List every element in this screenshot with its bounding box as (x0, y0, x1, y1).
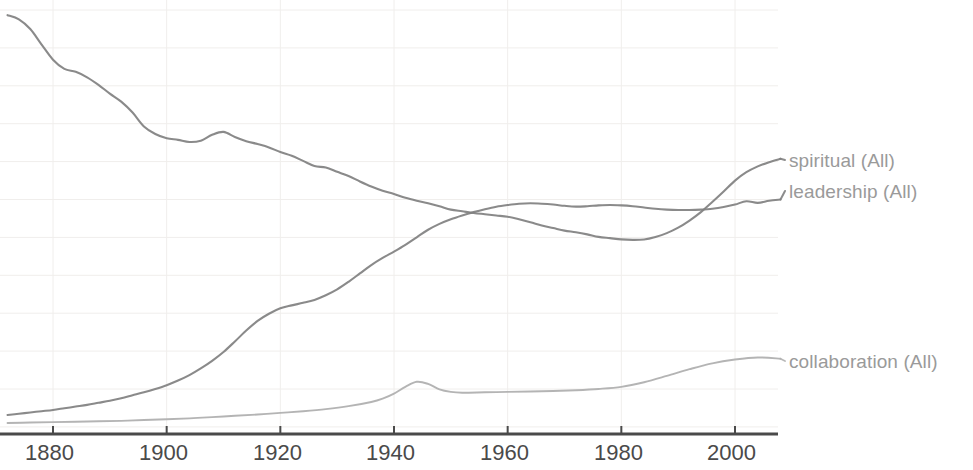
legend-label-collaboration[interactable]: collaboration (All) (789, 351, 938, 373)
xtick-label-2000: 2000 (707, 440, 756, 466)
xtick-label-1900: 1900 (139, 440, 188, 466)
chart-canvas: 1880 1900 1920 1940 1960 1980 2000 spiri… (0, 0, 973, 470)
xtick-label-1980: 1980 (594, 440, 643, 466)
xtick-label-1960: 1960 (480, 440, 529, 466)
xtick-label-1940: 1940 (366, 440, 415, 466)
xtick-label-1920: 1920 (253, 440, 302, 466)
legend-label-leadership[interactable]: leadership (All) (789, 181, 917, 203)
legend-label-spiritual[interactable]: spiritual (All) (789, 150, 895, 172)
ngram-line-chart (0, 0, 973, 470)
gridlines (0, 0, 778, 434)
legend-leader-lines (781, 159, 786, 361)
xtick-label-1880: 1880 (25, 440, 74, 466)
